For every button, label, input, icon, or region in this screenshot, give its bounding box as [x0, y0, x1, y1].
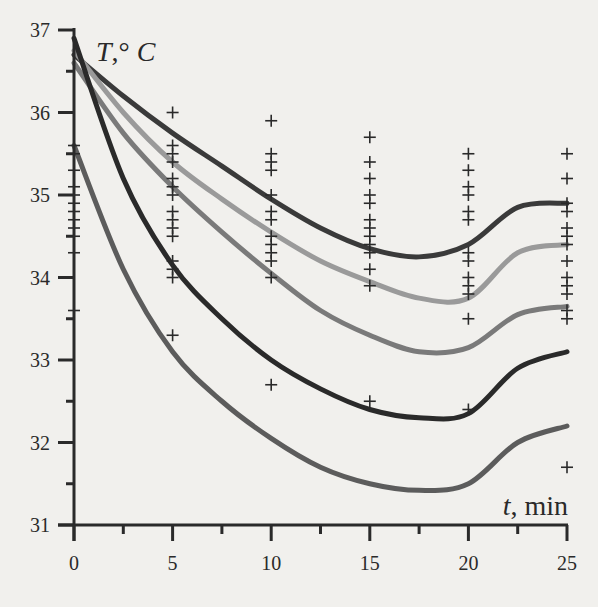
- plus-marker-icon: [462, 164, 474, 176]
- plus-marker-icon: [364, 395, 376, 407]
- y-tick-label: 35: [30, 184, 50, 206]
- plus-marker-icon: [265, 272, 277, 284]
- plus-marker-icon: [462, 255, 474, 267]
- y-axis-title: T,° C: [96, 36, 156, 67]
- plus-marker-icon: [462, 148, 474, 160]
- plus-marker-icon: [462, 214, 474, 226]
- plus-marker-icon: [561, 288, 573, 300]
- plus-marker-icon: [364, 263, 376, 275]
- plus-marker-icon: [561, 461, 573, 473]
- y-tick-label: 37: [30, 19, 50, 41]
- curves-layer: [74, 38, 567, 490]
- y-ticks: 31323334353637: [30, 19, 74, 536]
- x-tick-label: 10: [261, 552, 281, 574]
- x-axis-title: t, min: [503, 490, 568, 521]
- plus-marker-icon: [167, 107, 179, 119]
- plus-marker-icon: [561, 255, 573, 267]
- plus-marker-icon: [364, 131, 376, 143]
- y-tick-label: 36: [30, 102, 50, 124]
- y-tick-label: 32: [30, 432, 50, 454]
- measurement-markers: [68, 107, 573, 474]
- curve-3-line: [74, 63, 567, 353]
- plus-marker-icon: [265, 164, 277, 176]
- plus-marker-icon: [561, 313, 573, 325]
- plus-marker-icon: [462, 313, 474, 325]
- y-tick-label: 31: [30, 514, 50, 536]
- x-tick-label: 25: [557, 552, 577, 574]
- plus-marker-icon: [167, 230, 179, 242]
- plus-marker-icon: [167, 329, 179, 341]
- plus-marker-icon: [265, 379, 277, 391]
- y-tick-label: 34: [30, 267, 50, 289]
- x-tick-label: 15: [360, 552, 380, 574]
- plus-marker-icon: [561, 239, 573, 251]
- plus-marker-icon: [561, 173, 573, 185]
- x-tick-label: 5: [168, 552, 178, 574]
- plus-marker-icon: [364, 197, 376, 209]
- x-ticks: 0510152025: [69, 525, 577, 574]
- plus-marker-icon: [265, 255, 277, 267]
- plus-marker-icon: [265, 115, 277, 127]
- temperature-chart: 0510152025 31323334353637 T,° C t, min: [0, 0, 598, 607]
- x-tick-label: 0: [69, 552, 79, 574]
- plus-marker-icon: [364, 156, 376, 168]
- plus-marker-icon: [462, 189, 474, 201]
- plus-marker-icon: [265, 214, 277, 226]
- y-tick-label: 33: [30, 349, 50, 371]
- plus-marker-icon: [364, 173, 376, 185]
- plus-marker-icon: [561, 206, 573, 218]
- curve-5-line: [74, 146, 567, 491]
- x-tick-label: 20: [458, 552, 478, 574]
- plus-marker-icon: [561, 148, 573, 160]
- curve-2-line: [74, 51, 567, 303]
